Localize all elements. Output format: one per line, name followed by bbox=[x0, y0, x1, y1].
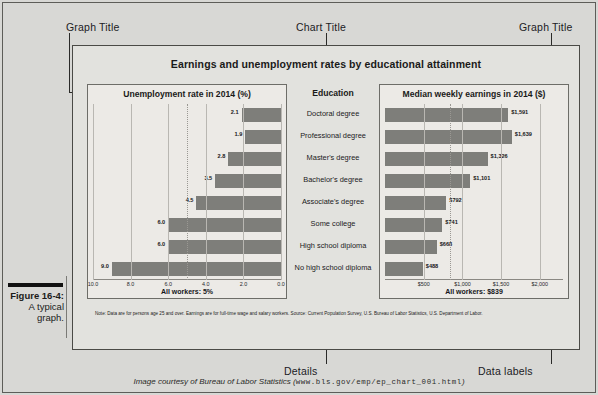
plot-area-unemployment: 2.11.92.83.54.56.06.09.0 bbox=[93, 104, 281, 280]
data-label-earnings-3: $1,101 bbox=[473, 175, 490, 181]
figure-caption-line-1: A typical bbox=[29, 301, 64, 312]
source-url: www.bls.gov/emp/ep_chart_001.html bbox=[296, 378, 462, 386]
bar-row: $1,639 bbox=[385, 126, 563, 148]
annotation-details: Details bbox=[284, 365, 318, 377]
education-label-3: Bachelor's degree bbox=[287, 169, 379, 191]
education-label-2: Master's degree bbox=[287, 147, 379, 169]
bar-unemployment-0 bbox=[242, 108, 281, 122]
source-suffix: ) bbox=[462, 377, 465, 386]
bar-unemployment-1 bbox=[245, 130, 281, 144]
education-label-column: Doctoral degreeProfessional degreeMaster… bbox=[287, 103, 379, 299]
source-prefix: Image courtesy of Bureau of Labor Statis… bbox=[133, 377, 295, 386]
chart-panel-earnings: Median weekly earnings in 2014 ($) $1,59… bbox=[379, 84, 569, 299]
gridline-unemployment-3 bbox=[206, 104, 207, 280]
bar-unemployment-7 bbox=[112, 262, 281, 276]
bar-earnings-0 bbox=[385, 108, 508, 122]
tick-label-earnings-0: $500 bbox=[418, 281, 430, 287]
bar-unemployment-3 bbox=[215, 174, 281, 188]
data-label-unemployment-1: 1.9 bbox=[235, 131, 243, 137]
data-label-unemployment-7: 9.0 bbox=[101, 263, 109, 269]
panel-title-earnings: Median weekly earnings in 2014 ($) bbox=[380, 89, 568, 99]
gridline-earnings-3 bbox=[540, 104, 541, 280]
all-workers-unemployment: All workers: 5% bbox=[88, 288, 286, 295]
figure-page: Graph Title Chart Title Graph Title Deta… bbox=[0, 0, 598, 395]
plot-area-earnings: $1,591$1,639$1,326$1,101$792$741$668$488 bbox=[385, 104, 563, 280]
data-label-earnings-7: $488 bbox=[426, 263, 438, 269]
chart-note: Note: Data are for persons age 25 and ov… bbox=[95, 310, 565, 317]
source-credit: Image courtesy of Bureau of Labor Statis… bbox=[0, 377, 598, 386]
annotation-data-labels: Data labels bbox=[478, 365, 533, 377]
tick-label-unemployment-5: 0.0 bbox=[277, 281, 285, 287]
axis-line-earnings bbox=[385, 279, 563, 280]
data-label-earnings-4: $792 bbox=[449, 197, 461, 203]
data-label-earnings-5: $741 bbox=[445, 219, 457, 225]
leader-line-graph-left-v bbox=[69, 33, 70, 92]
figure-caption-rule bbox=[8, 283, 63, 287]
panel-title-unemployment: Unemployment rate in 2014 (%) bbox=[88, 89, 286, 99]
bar-rows-earnings: $1,591$1,639$1,326$1,101$792$741$668$488 bbox=[385, 104, 563, 280]
bar-unemployment-6 bbox=[168, 240, 281, 254]
bar-earnings-1 bbox=[385, 130, 512, 144]
education-label-0: Doctoral degree bbox=[287, 103, 379, 125]
data-label-unemployment-0: 2.1 bbox=[231, 109, 239, 115]
tick-label-earnings-1: $1,000 bbox=[454, 281, 471, 287]
figure-caption-line-2: graph. bbox=[37, 312, 64, 323]
education-column-title: Education bbox=[287, 88, 379, 98]
education-label-5: Some college bbox=[287, 213, 379, 235]
bar-row: $1,326 bbox=[385, 148, 563, 170]
bar-earnings-7 bbox=[385, 262, 423, 276]
data-label-earnings-1: $1,639 bbox=[515, 131, 532, 137]
bar-earnings-4 bbox=[385, 196, 446, 210]
reference-line-earnings bbox=[450, 104, 451, 280]
annotation-graph-title-left: Graph Title bbox=[66, 21, 120, 33]
education-label-4: Associate's degree bbox=[287, 191, 379, 213]
education-label-6: High school diploma bbox=[287, 235, 379, 257]
tick-label-unemployment-1: 8.0 bbox=[127, 281, 135, 287]
tick-label-earnings-3: $2,000 bbox=[532, 281, 549, 287]
data-label-unemployment-5: 6.0 bbox=[157, 219, 165, 225]
tick-label-unemployment-0: 10.0 bbox=[88, 281, 99, 287]
chart-panel-unemployment: Unemployment rate in 2014 (%) 2.11.92.83… bbox=[87, 84, 287, 299]
annotation-chart-title: Chart Title bbox=[296, 21, 346, 33]
bar-row: $1,101 bbox=[385, 170, 563, 192]
reference-line-unemployment bbox=[187, 104, 188, 280]
bar-earnings-2 bbox=[385, 152, 488, 166]
all-workers-earnings: All workers: $839 bbox=[380, 288, 568, 295]
bar-earnings-5 bbox=[385, 218, 442, 232]
tick-label-unemployment-3: 4.0 bbox=[202, 281, 210, 287]
bar-row: $668 bbox=[385, 236, 563, 258]
data-label-earnings-2: $1,326 bbox=[491, 153, 508, 159]
bar-row: $1,591 bbox=[385, 104, 563, 126]
bar-row: $741 bbox=[385, 214, 563, 236]
annotation-graph-title-right: Graph Title bbox=[519, 21, 573, 33]
gridline-unemployment-4 bbox=[243, 104, 244, 280]
bar-row: $488 bbox=[385, 258, 563, 280]
figure-margin-divider bbox=[66, 276, 67, 338]
gridline-unemployment-1 bbox=[131, 104, 132, 280]
gridline-unemployment-2 bbox=[168, 104, 169, 280]
data-label-earnings-0: $1,591 bbox=[511, 109, 528, 115]
bar-row: $792 bbox=[385, 192, 563, 214]
education-label-7: No high school diploma bbox=[287, 257, 379, 279]
gridline-unemployment-5 bbox=[281, 104, 282, 280]
gridline-earnings-2 bbox=[501, 104, 502, 280]
tick-label-unemployment-4: 2.0 bbox=[240, 281, 248, 287]
figure-number: Figure 16-4: bbox=[2, 290, 64, 301]
tick-label-unemployment-2: 6.0 bbox=[164, 281, 172, 287]
tick-label-earnings-2: $1,500 bbox=[493, 281, 510, 287]
gridline-unemployment-0 bbox=[93, 104, 94, 280]
bar-unemployment-2 bbox=[228, 152, 281, 166]
bar-unemployment-5 bbox=[168, 218, 281, 232]
gridline-earnings-1 bbox=[462, 104, 463, 280]
data-label-unemployment-6: 6.0 bbox=[157, 241, 165, 247]
bls-chart-graphic: Earnings and unemployment rates by educa… bbox=[72, 45, 580, 350]
bar-earnings-3 bbox=[385, 174, 470, 188]
bar-earnings-6 bbox=[385, 240, 437, 254]
data-label-unemployment-2: 2.8 bbox=[218, 153, 226, 159]
graphic-title: Earnings and unemployment rates by educa… bbox=[73, 58, 579, 70]
gridline-earnings-0 bbox=[424, 104, 425, 280]
bar-unemployment-4 bbox=[196, 196, 281, 210]
figure-caption: Figure 16-4: A typical graph. bbox=[2, 290, 64, 323]
education-label-1: Professional degree bbox=[287, 125, 379, 147]
